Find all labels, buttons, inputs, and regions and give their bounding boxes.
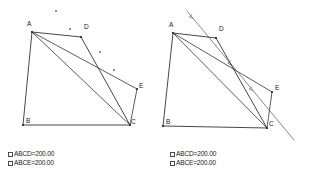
vertex-point-A[interactable] [31,31,33,33]
measurement-label: ABCD=200.00 [176,150,216,158]
vertex-label-B: B [26,117,30,124]
ray-group-right[interactable] [187,11,294,140]
edge-group-left [23,32,137,125]
trace-point [99,51,101,53]
segment-AE [32,32,137,89]
segment-BA [23,32,32,125]
measurement-row[interactable]: ABCD=200.00 [170,150,216,158]
vertex-point-E[interactable] [271,91,273,93]
measurement-panel-left: ABCD=200.00 ABCE=200.00 [8,150,54,167]
construction-panel-right[interactable]: ABCDE ABCD=200.00 ABCE=200.00 [162,0,324,179]
measurement-row[interactable]: ABCD=200.00 [8,150,54,158]
measurement-label: ABCE=200.00 [176,159,216,167]
vertex-label-D: D [219,25,224,32]
segment-CB [163,126,267,128]
vertex-point-D[interactable] [215,37,217,39]
vertex-point-D[interactable] [80,36,82,38]
vertex-point-B[interactable] [162,125,164,127]
vertex-label-E: E [139,82,144,89]
checkbox-unchecked[interactable] [170,161,175,166]
trace-point [113,69,115,71]
vertex-label-B: B [166,118,170,125]
vertex-label-C: C [131,118,136,125]
vertex-group-left: ABCDE [22,20,144,126]
vertex-label-D: D [84,23,89,30]
figure-stage: ABCDE ABCD=200.00 ABCE=200.00 ABCDE ABCD… [0,0,324,179]
measurement-row[interactable]: ABCE=200.00 [8,159,54,167]
trace-point [69,28,71,30]
segment-DC [216,38,267,128]
vertex-label-C: C [269,120,274,127]
checkbox-unchecked[interactable] [8,152,13,157]
segment-AC [32,32,130,125]
segment-BA [163,33,173,126]
vertex-point-C[interactable] [266,127,268,129]
vertex-point-E[interactable] [136,88,138,90]
measurement-label: ABCD=200.00 [14,150,54,158]
vertex-point-B[interactable] [22,124,24,126]
vertex-point-A[interactable] [172,32,174,34]
measurement-row[interactable]: ABCE=200.00 [170,159,216,167]
checkbox-unchecked[interactable] [8,161,13,166]
measurement-label: ABCE=200.00 [14,159,54,167]
vertex-label-A: A [27,20,32,27]
measurement-panel-right: ABCD=200.00 ABCE=200.00 [170,150,216,167]
vertex-label-A: A [169,21,174,28]
vertex-label-E: E [275,84,280,91]
direction-ray-line[interactable] [187,11,294,140]
trace-dot-group-left [55,10,115,71]
trace-point [55,10,57,12]
checkbox-unchecked[interactable] [170,152,175,157]
construction-panel-left[interactable]: ABCDE ABCD=200.00 ABCE=200.00 [0,0,162,179]
